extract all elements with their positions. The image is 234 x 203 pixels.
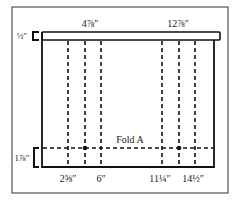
intersection-dot [83, 146, 88, 151]
bottom-label-6: 6″ [96, 173, 105, 184]
bottom-label-11-1-4: 11¼″ [149, 173, 170, 184]
bottom-label-2-5-8: 2⅝″ [60, 173, 77, 184]
bottom-band-bracket [34, 148, 39, 167]
top-label-12-7-8: 12⅞″ [167, 18, 189, 29]
fold-pattern-diagram: 4⅞″ 12⅞″ ½″ 1⅞″ Fold A 2⅝″ 6″ 11¼″ 14½″ [0, 0, 234, 203]
top-label-4-7-8: 4⅞″ [82, 18, 99, 29]
intersection-dot [177, 146, 182, 151]
left-label-half-inch: ½″ [17, 31, 28, 41]
fold-a-label: Fold A [116, 134, 144, 145]
top-band-bracket [33, 32, 39, 40]
left-label-1-7-8: 1⅞″ [15, 153, 30, 163]
bottom-label-14-1-2: 14½″ [182, 173, 204, 184]
top-band [42, 32, 220, 40]
